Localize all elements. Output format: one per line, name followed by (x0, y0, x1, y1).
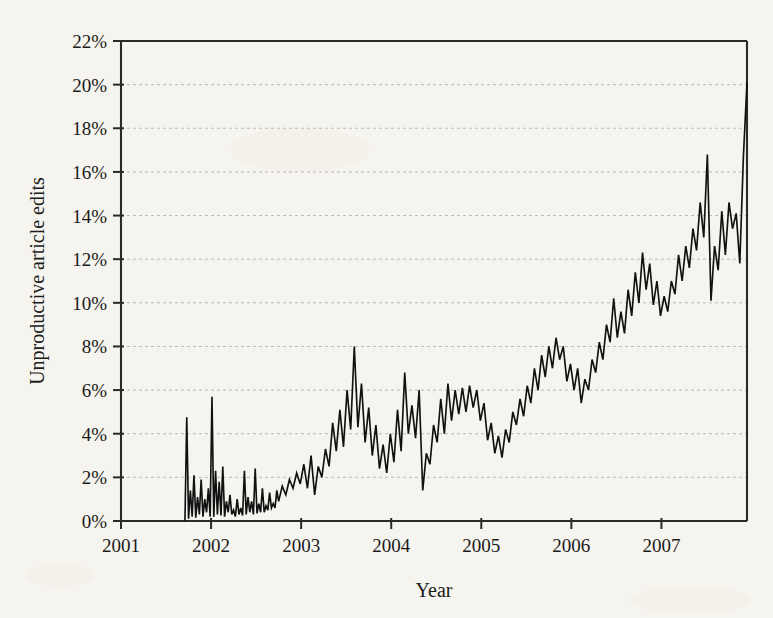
y-tick-label: 2% (82, 467, 108, 488)
x-axis-title: Year (416, 579, 453, 601)
y-tick-label: 8% (82, 336, 108, 357)
y-tick-label: 20% (72, 75, 107, 96)
x-tick-label: 2001 (102, 535, 140, 556)
y-tick-label: 16% (72, 162, 107, 183)
figure-page: 0%2%4%6%8%10%12%14%16%18%20%22% 20012002… (0, 0, 773, 618)
y-tick-label: 10% (72, 293, 107, 314)
y-tick-label: 18% (72, 118, 107, 139)
x-tick-label: 2004 (372, 535, 411, 556)
y-tick-label: 4% (82, 424, 108, 445)
x-tick-label: 2005 (462, 535, 500, 556)
x-tick-label: 2006 (552, 535, 590, 556)
y-tick-label: 22% (72, 31, 107, 52)
y-axis-title: Unproductive article edits (26, 177, 49, 385)
y-tick-label: 14% (72, 206, 107, 227)
y-tick-label: 0% (82, 511, 108, 532)
x-tick-label: 2007 (642, 535, 680, 556)
y-tick-label: 6% (82, 380, 108, 401)
x-tick-label: 2002 (192, 535, 230, 556)
y-tick-label: 12% (72, 249, 107, 270)
paper-texture (0, 0, 773, 618)
x-tick-label: 2003 (282, 535, 320, 556)
line-chart: 0%2%4%6%8%10%12%14%16%18%20%22% 20012002… (0, 0, 773, 618)
